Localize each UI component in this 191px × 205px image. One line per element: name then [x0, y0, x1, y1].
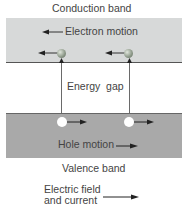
- excitation-line-left: [61, 60, 62, 118]
- electron-left: [57, 49, 66, 58]
- hole-arrow-right-icon: [134, 119, 154, 125]
- excitation-arrowhead-left-icon: [59, 58, 64, 63]
- electron-motion-arrow-icon: [42, 29, 64, 35]
- valence-band-title: Valence band: [62, 162, 125, 174]
- electron-arrow-right-icon: [105, 50, 125, 56]
- excitation-line-right: [129, 60, 130, 118]
- excitation-arrowhead-right-icon: [127, 58, 132, 63]
- electric-field-arrow-icon: [103, 194, 139, 200]
- energy-gap-label: Energy gap: [67, 80, 124, 92]
- hole-motion-label: Hole motion: [58, 138, 114, 150]
- conduction-band-title: Conduction band: [52, 2, 131, 14]
- hole-motion-arrow-icon: [116, 143, 138, 149]
- electron-motion-label: Electron motion: [65, 25, 138, 37]
- hole-left: [57, 117, 67, 127]
- electron-right: [124, 49, 133, 58]
- hole-arrow-left-icon: [67, 119, 87, 125]
- legend-line2: and current: [44, 194, 97, 205]
- electron-arrow-left-icon: [38, 50, 58, 56]
- valence-band: [6, 113, 182, 158]
- hole-right: [124, 117, 134, 127]
